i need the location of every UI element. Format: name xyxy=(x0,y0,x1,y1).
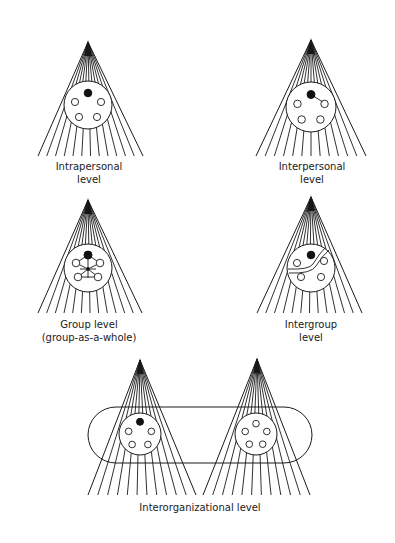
system-boundary-circle xyxy=(64,81,112,129)
member-icon xyxy=(298,116,306,124)
system-boundary-circle xyxy=(235,413,277,455)
member-icon xyxy=(242,428,249,435)
member-icon xyxy=(320,257,327,264)
member-icon xyxy=(317,116,325,124)
label-interpersonal-line1: Interpersonal xyxy=(279,161,346,172)
panel-intergroup xyxy=(257,195,362,313)
member-icon xyxy=(293,259,300,266)
member-icon xyxy=(246,441,253,448)
focal-member-icon xyxy=(307,91,315,99)
focal-member-icon xyxy=(307,251,315,259)
member-icon xyxy=(75,113,82,120)
member-icon xyxy=(263,428,270,435)
focal-member-icon xyxy=(84,251,92,259)
label-group-line1: Group level xyxy=(60,319,117,330)
panel-group xyxy=(38,198,142,313)
member-icon xyxy=(259,441,266,448)
member-icon xyxy=(129,441,136,448)
member-icon xyxy=(294,100,302,108)
group-hub xyxy=(87,268,90,271)
member-icon xyxy=(317,273,324,280)
label-group-line2: (group-as-a-whole) xyxy=(42,332,137,343)
focal-member-icon xyxy=(84,89,92,97)
member-icon xyxy=(125,428,132,435)
label-intrapersonal-line2: level xyxy=(77,174,101,185)
member-icon xyxy=(94,273,102,281)
member-icon xyxy=(93,113,100,120)
system-boundary-circle xyxy=(286,82,336,132)
panel-interorganizational xyxy=(88,357,312,495)
panel-interpersonal xyxy=(256,38,366,156)
label-intergroup-line1: Intergroup xyxy=(285,319,337,330)
member-icon xyxy=(148,428,155,435)
member-icon xyxy=(145,441,152,448)
member-icon xyxy=(297,273,304,280)
member-icon xyxy=(74,273,82,281)
systems-levels-diagram: Intrapersonal level Interpersonal level … xyxy=(0,0,395,543)
label-interorganizational: Interorganizational level xyxy=(139,502,260,513)
focal-member-icon xyxy=(137,418,144,425)
member-icon xyxy=(72,259,80,267)
label-intergroup-line2: level xyxy=(299,332,323,343)
panel-intrapersonal xyxy=(38,40,143,156)
member-icon xyxy=(253,420,260,427)
member-icon xyxy=(71,98,78,105)
member-icon xyxy=(96,259,104,267)
label-intrapersonal-line1: Intrapersonal xyxy=(56,161,123,172)
member-icon xyxy=(97,98,104,105)
label-interpersonal-line2: level xyxy=(300,174,324,185)
